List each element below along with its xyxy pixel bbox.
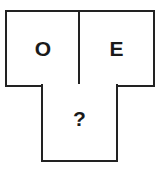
cell-bottom-unknown: ?: [41, 84, 118, 162]
cell-label-o: O: [35, 38, 51, 59]
cell-label-e: E: [109, 38, 123, 59]
cell-top-right: E: [78, 10, 155, 87]
question-mark: ?: [73, 108, 86, 129]
cell-top-left: O: [5, 10, 81, 87]
